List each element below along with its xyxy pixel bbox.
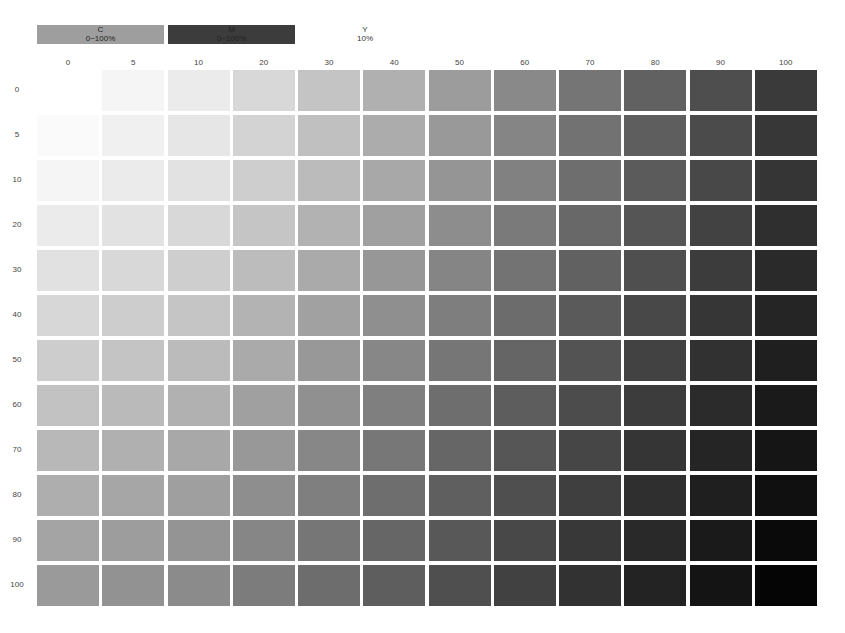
legend-c-range: 0~100%: [37, 34, 164, 43]
swatch-cell: [559, 565, 621, 606]
swatch-cell: [37, 430, 99, 471]
swatch-cell: [168, 70, 230, 111]
swatch-cell: [494, 205, 556, 246]
swatch-cell: [429, 475, 491, 516]
swatch-cell: [690, 565, 752, 606]
swatch-cell: [429, 430, 491, 471]
swatch-cell: [37, 115, 99, 156]
swatch-cell: [102, 475, 164, 516]
swatch-cell: [624, 385, 686, 426]
swatch-cell: [363, 340, 425, 381]
swatch-cell: [168, 340, 230, 381]
swatch-cell: [559, 70, 621, 111]
swatch-cell: [690, 340, 752, 381]
legend-y: Y 10%: [330, 25, 400, 43]
swatch-cell: [298, 115, 360, 156]
row-label: 100: [0, 580, 34, 589]
swatch-cell: [298, 70, 360, 111]
row-label: 80: [0, 490, 34, 499]
swatch-cell: [429, 565, 491, 606]
swatch-cell: [233, 565, 295, 606]
swatch-cell: [363, 430, 425, 471]
swatch-cell: [168, 565, 230, 606]
swatch-cell: [363, 520, 425, 561]
swatch-cell: [363, 565, 425, 606]
swatch-cell: [363, 250, 425, 291]
swatch-cell: [37, 475, 99, 516]
row-label: 10: [0, 175, 34, 184]
swatch-cell: [102, 385, 164, 426]
swatch-cell: [755, 385, 817, 426]
swatch-cell: [755, 520, 817, 561]
swatch-cell: [363, 115, 425, 156]
swatch-cell: [755, 115, 817, 156]
swatch-cell: [429, 295, 491, 336]
column-label: 20: [233, 58, 295, 67]
swatch-cell: [37, 520, 99, 561]
swatch-cell: [429, 250, 491, 291]
swatch-cell: [233, 340, 295, 381]
swatch-cell: [624, 250, 686, 291]
swatch-cell: [168, 205, 230, 246]
swatch-cell: [624, 115, 686, 156]
swatch-cell: [690, 430, 752, 471]
swatch-cell: [755, 565, 817, 606]
legend-m-range: 0~100%: [168, 34, 295, 43]
swatch-cell: [559, 340, 621, 381]
swatch-cell: [429, 205, 491, 246]
swatch-cell: [494, 115, 556, 156]
swatch-cell: [298, 295, 360, 336]
swatch-cell: [494, 385, 556, 426]
row-label: 90: [0, 535, 34, 544]
swatch-cell: [298, 475, 360, 516]
swatch-cell: [37, 295, 99, 336]
swatch-cell: [755, 250, 817, 291]
swatch-cell: [102, 70, 164, 111]
swatch-cell: [168, 115, 230, 156]
swatch-cell: [102, 430, 164, 471]
swatch-cell: [559, 160, 621, 201]
swatch-cell: [494, 340, 556, 381]
swatch-cell: [233, 205, 295, 246]
swatch-cell: [233, 430, 295, 471]
swatch-cell: [494, 295, 556, 336]
swatch-cell: [494, 520, 556, 561]
swatch-cell: [559, 295, 621, 336]
swatch-cell: [755, 160, 817, 201]
swatch-cell: [37, 70, 99, 111]
swatch-cell: [102, 340, 164, 381]
swatch-cell: [429, 115, 491, 156]
legend-y-name: Y: [330, 25, 400, 34]
swatch-cell: [429, 385, 491, 426]
swatch-cell: [624, 70, 686, 111]
swatch-cell: [233, 160, 295, 201]
swatch-cell: [233, 295, 295, 336]
swatch-cell: [494, 475, 556, 516]
swatch-cell: [690, 250, 752, 291]
swatch-cell: [168, 250, 230, 291]
swatch-cell: [37, 205, 99, 246]
swatch-cell: [102, 115, 164, 156]
swatch-cell: [363, 385, 425, 426]
swatch-cell: [168, 295, 230, 336]
swatch-cell: [363, 160, 425, 201]
swatch-cell: [429, 520, 491, 561]
swatch-cell: [624, 430, 686, 471]
swatch-cell: [624, 160, 686, 201]
row-label: 20: [0, 220, 34, 229]
column-label: 60: [494, 58, 556, 67]
swatch-cell: [298, 430, 360, 471]
swatch-cell: [559, 430, 621, 471]
swatch-cell: [168, 385, 230, 426]
swatch-cell: [233, 115, 295, 156]
swatch-cell: [494, 70, 556, 111]
swatch-cell: [755, 340, 817, 381]
swatch-cell: [494, 565, 556, 606]
swatch-cell: [755, 205, 817, 246]
column-label: 10: [168, 58, 230, 67]
column-label: 50: [429, 58, 491, 67]
swatch-cell: [363, 70, 425, 111]
swatch-cell: [494, 250, 556, 291]
swatch-cell: [624, 340, 686, 381]
swatch-cell: [559, 385, 621, 426]
